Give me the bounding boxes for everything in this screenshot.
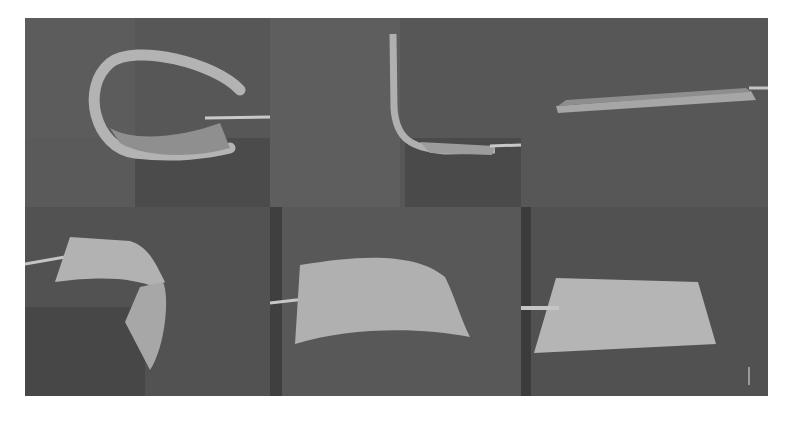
panel-bottom-middle-curved [270, 207, 521, 396]
photo-grid [25, 18, 768, 396]
panel-top-right-flat-edge [521, 18, 768, 207]
panel-bottom-right-flat [521, 207, 768, 396]
panel-top-left-curled-loop [25, 18, 270, 207]
panel-top-middle-bent [270, 18, 521, 207]
panel-bottom-left-folded [25, 207, 270, 396]
